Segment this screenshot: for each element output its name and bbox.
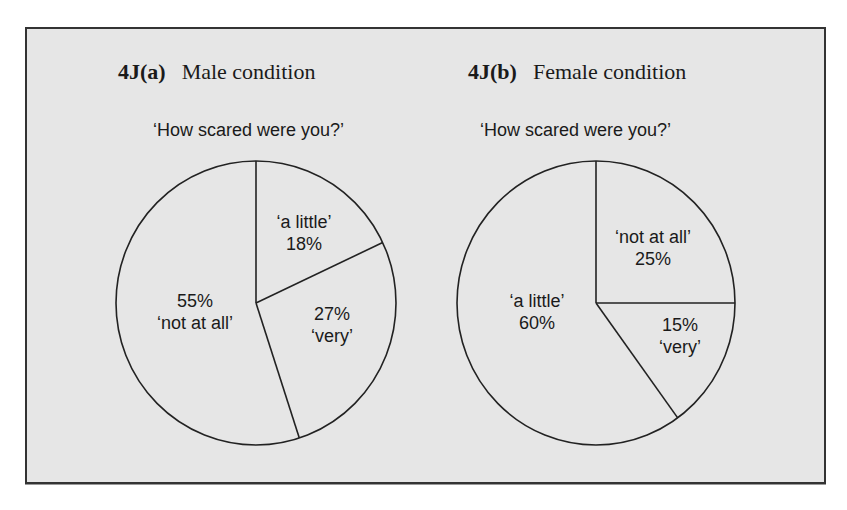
- slice-label-line2: ‘not at all’: [157, 313, 233, 333]
- slice-label-line1: ‘a little’: [509, 291, 564, 311]
- slice-label-line1: 55%: [177, 291, 213, 311]
- slice-label-line1: ‘not at all’: [615, 227, 691, 247]
- pie-chart-female: ‘not at all’25%15%‘very’‘a little’60%: [457, 161, 735, 445]
- slice-label-line1: 15%: [662, 315, 698, 335]
- slice-label-line1: 27%: [314, 304, 350, 324]
- slice-label-line2: ‘very’: [659, 337, 701, 357]
- pie-charts: ‘a little’18%27%‘very’55%‘not at all’ ‘n…: [0, 0, 847, 510]
- slice-label-line2: ‘very’: [311, 326, 353, 346]
- pie-chart-male: ‘a little’18%27%‘very’55%‘not at all’: [116, 161, 396, 445]
- slice-label-line2: 60%: [519, 313, 555, 333]
- slice-label-line2: 25%: [635, 249, 671, 269]
- slice-label-line2: 18%: [286, 234, 322, 254]
- slice-label-line1: ‘a little’: [276, 212, 331, 232]
